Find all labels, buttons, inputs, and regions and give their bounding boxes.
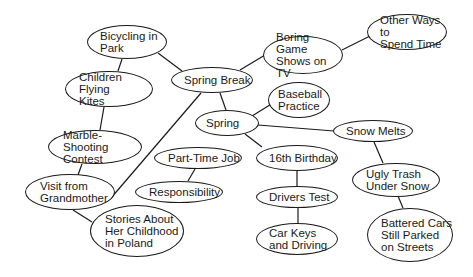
node-car-keys-and-driving: Car Keys and Driving [256,223,338,255]
edge-children_kites-marble [100,107,104,130]
node-boring-game-shows: Boring Game Shows on TV [263,36,343,74]
edge-boring_game-other_ways [342,36,370,50]
edge-spring_break-spring [220,93,226,110]
node-label: Drivers Test [269,191,330,203]
node-label: Marble-Shooting Contest [63,129,141,165]
node-label: Stories About Her Childhood in Poland [105,213,179,249]
edge-bicycling-spring_break [158,53,182,71]
concept-map-canvas: Bicycling in Park Spring Break Boring Ga… [0,0,473,277]
edge-snow_melts-ugly_trash [374,142,383,163]
node-label: Part-Time Job [168,152,240,164]
node-label: Snow Melts [346,125,405,137]
edge-bicycling-children_kites [118,59,122,71]
node-label: Car Keys and Driving [269,227,327,251]
node-children-flying-kites: Children Flying Kites [65,71,153,107]
node-snow-melts: Snow Melts [333,120,413,142]
node-label: Boring Game Shows on TV [276,31,342,79]
node-marble-shooting-contest: Marble-Shooting Contest [48,130,142,164]
node-label: Baseball Practice [278,88,322,112]
edge-spring-birthday [245,134,262,147]
node-spring: Spring [195,110,259,136]
edge-spring_break-boring_game [240,55,265,70]
node-drivers-test: Drivers Test [256,186,338,208]
node-responsibility: Responsibility [135,181,223,203]
node-label: 16th Birthday [269,152,337,164]
node-visit-from-grandmother: Visit from Grandmother [25,174,115,210]
edge-part_time-responsibility [188,169,195,181]
node-battered-cars: Battered Cars Still Parked on Streets [367,208,453,262]
edge-ugly_trash-battered [398,196,403,208]
node-label: Bicycling in Park [100,30,158,54]
node-part-time-job: Part-Time Job [154,147,242,169]
edge-spring-snow_melts [258,125,334,131]
node-label: Battered Cars Still Parked on Streets [381,217,452,253]
node-label: Ugly Trash Under Snow [366,168,429,192]
node-label: Other Ways to Spend Time [380,14,446,50]
node-other-ways-to-spend-time: Other Ways to Spend Time [367,14,447,50]
edge-grandmother-stories [73,210,92,222]
node-ugly-trash-under-snow: Ugly Trash Under Snow [352,163,440,197]
node-spring-break: Spring Break [171,67,253,93]
node-label: Spring Break [184,74,250,86]
node-label: Visit from Grandmother [40,180,108,204]
node-baseball-practice: Baseball Practice [268,82,330,118]
node-label: Spring [206,117,239,129]
node-stories-about-childhood: Stories About Her Childhood in Poland [90,205,184,257]
node-16th-birthday: 16th Birthday [256,145,338,171]
node-label: Children Flying Kites [79,71,152,107]
node-label: Responsibility [149,186,220,198]
node-bicycling-in-park: Bicycling in Park [87,25,167,59]
